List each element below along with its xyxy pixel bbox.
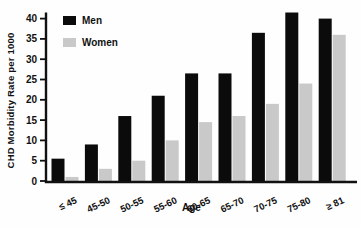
bar-women-9 [333,35,346,182]
bar-men-9 [319,19,332,182]
y-tick-label: 15 [26,115,38,126]
bar-men-6 [219,73,232,182]
bar-men-5 [185,73,198,182]
bar-women-7 [266,104,279,182]
bar-women-5 [199,122,212,182]
y-tick-label: 20 [26,94,38,105]
chart-legend: Men Women [63,15,118,59]
y-tick-label: 25 [26,74,38,85]
bar-women-2 [99,169,112,182]
bar-men-4 [152,96,165,182]
bar-men-2 [85,144,98,182]
women-color-swatch [63,38,76,47]
legend-label-men: Men [82,15,102,26]
y-tick-label: 40 [26,13,38,24]
y-tick-label: 10 [26,135,38,146]
men-color-swatch [63,16,76,25]
bar-men-7 [252,33,265,182]
bar-men-1 [52,159,65,182]
legend-entry-men: Men [63,15,118,26]
x-tick-label: 65-70 [219,194,246,214]
bar-women-8 [299,84,312,182]
chd-morbidity-bar-chart: 0510152025303540≤ 4545-5050-5555-6060-65… [0,0,361,227]
y-axis-title: CHD Morbidity Rate per 1000 [5,16,18,186]
x-tick-label: 45-50 [85,194,112,214]
y-tick-label: 35 [26,33,38,44]
x-tick-label: 70-75 [252,194,279,215]
y-tick-label: 30 [26,54,38,65]
bar-women-6 [233,116,246,182]
bar-men-3 [118,116,131,182]
chd-morbidity-figure: 0510152025303540≤ 4545-5050-5555-6060-65… [0,0,361,227]
bar-women-3 [132,161,145,182]
x-tick-label: 55-60 [152,194,179,214]
legend-label-women: Women [82,37,118,48]
x-tick-label: ≤ 45 [57,194,79,212]
bar-women-4 [166,140,179,182]
x-tick-label: 75-80 [285,194,312,214]
x-axis-title: Age [182,202,201,213]
x-tick-label: 50-55 [118,194,145,215]
legend-entry-women: Women [63,37,118,48]
y-tick-label: 0 [31,176,37,187]
x-tick-label: ≥ 81 [324,194,346,212]
y-tick-label: 5 [31,155,37,166]
bar-men-8 [285,13,298,182]
